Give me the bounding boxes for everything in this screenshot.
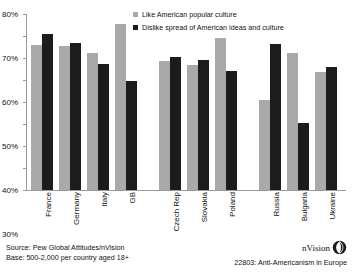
bar-dislike bbox=[70, 43, 81, 190]
y-tick-mark: 10% bbox=[23, 168, 26, 169]
bar-dislike bbox=[198, 60, 209, 190]
bar-like bbox=[31, 45, 42, 190]
x-axis-label-slovakia: Slovakia bbox=[200, 192, 209, 222]
bar-dislike bbox=[298, 123, 309, 190]
y-tick-mark: 70% bbox=[23, 36, 26, 37]
bar-dislike bbox=[270, 44, 281, 190]
bar-like bbox=[115, 24, 126, 190]
y-tick-mark: 80% bbox=[23, 14, 26, 15]
footer-brand-block: nVision 22803: Anti-Americanism in Europ… bbox=[234, 240, 347, 267]
bar-like bbox=[187, 65, 198, 190]
y-tick-mark: 50% bbox=[23, 80, 26, 81]
nvision-leaf-logo-icon bbox=[332, 240, 347, 255]
bar-dislike bbox=[126, 81, 137, 190]
bar-like bbox=[215, 38, 226, 190]
bar-like bbox=[59, 46, 70, 190]
brand-name: nVision bbox=[302, 243, 330, 253]
y-tick-label: 50% bbox=[2, 142, 18, 151]
bar-like bbox=[315, 72, 326, 190]
y-tick-mark: 30% bbox=[23, 124, 26, 125]
source-text: Source: Pew Global Attitudes/nVision bbox=[6, 243, 129, 253]
bar-dislike bbox=[42, 34, 53, 190]
y-tick-mark: 20% bbox=[23, 146, 26, 147]
y-tick-label: 30% bbox=[2, 230, 18, 239]
x-axis-label-france: France bbox=[44, 192, 53, 217]
y-tick-mark: 0% bbox=[23, 190, 26, 191]
bar-like bbox=[159, 61, 170, 190]
x-axis-label-italy: Italy bbox=[100, 192, 109, 207]
footer-source-block: Source: Pew Global Attitudes/nVision Bas… bbox=[6, 243, 129, 262]
bar-like bbox=[287, 53, 298, 191]
x-axis-category-labels: FranceGermanyItalyGBCzech RepSlovakiaPol… bbox=[26, 192, 346, 240]
y-tick-mark: 60% bbox=[23, 58, 26, 59]
y-tick-label: 80% bbox=[2, 10, 18, 19]
bar-like bbox=[259, 100, 270, 190]
x-axis-line bbox=[26, 190, 346, 191]
y-tick-mark: 40% bbox=[23, 102, 26, 103]
y-tick-label: 70% bbox=[2, 54, 18, 63]
x-axis-label-bulgaria: Bulgaria bbox=[300, 192, 309, 221]
x-axis-label-gb: GB bbox=[128, 192, 137, 204]
bar-dislike bbox=[98, 64, 109, 191]
bar-dislike bbox=[170, 57, 181, 190]
x-axis-label-germany: Germany bbox=[72, 192, 81, 225]
bar-like bbox=[87, 53, 98, 191]
chart-plot-area: 0%10%20%30%40%50%60%70%80% bbox=[26, 14, 346, 190]
x-axis-label-czech-rep: Czech Rep bbox=[172, 192, 181, 232]
bar-dislike bbox=[226, 71, 237, 190]
x-axis-label-poland: Poland bbox=[228, 192, 237, 217]
x-axis-label-ukraine: Ukraine bbox=[328, 192, 337, 220]
base-text: Base: 500-2,000 per country aged 18+ bbox=[6, 253, 129, 263]
x-axis-label-russia: Russia bbox=[272, 192, 281, 216]
chart-reference: 22803: Anti-Americanism in Europe bbox=[234, 258, 347, 267]
y-tick-label: 60% bbox=[2, 98, 18, 107]
bar-dislike bbox=[326, 67, 337, 190]
y-tick-label: 40% bbox=[2, 186, 18, 195]
brand-row: nVision bbox=[234, 240, 347, 255]
bar-series-container bbox=[27, 14, 346, 190]
